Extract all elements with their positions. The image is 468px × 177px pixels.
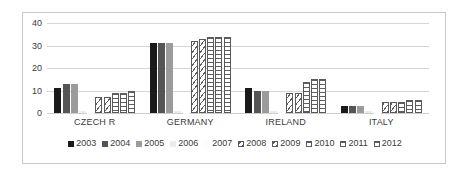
bar bbox=[63, 84, 70, 113]
legend-item-2007[interactable]: 2007 bbox=[204, 139, 232, 148]
category-label-ireland: IRELAND bbox=[238, 117, 334, 127]
bar bbox=[286, 93, 293, 113]
bar bbox=[199, 39, 206, 113]
legend-item-2006[interactable]: 2006 bbox=[170, 139, 198, 148]
category-label-czech-r: CZECH R bbox=[47, 117, 143, 127]
category-label-italy: ITALY bbox=[334, 117, 430, 127]
bar bbox=[262, 91, 269, 114]
bar bbox=[150, 43, 157, 113]
category-label-germany: GERMANY bbox=[143, 117, 239, 127]
legend-swatch-icon bbox=[136, 141, 142, 147]
bar bbox=[87, 113, 94, 114]
y-axis-tick-30: 30 bbox=[32, 41, 42, 50]
bar bbox=[341, 106, 348, 113]
legend-swatch-icon bbox=[102, 141, 108, 147]
chart-container: 010203040 CZECH RGERMANYIRELANDITALY 200… bbox=[22, 12, 446, 164]
bar bbox=[120, 93, 127, 113]
bar-group bbox=[238, 23, 334, 113]
legend-label: 2006 bbox=[178, 139, 198, 148]
bar bbox=[128, 91, 135, 114]
legend-label: 2005 bbox=[144, 139, 164, 148]
legend-label: 2008 bbox=[246, 139, 266, 148]
chart-legend: 2003200420052006200720082009201020112012 bbox=[33, 139, 437, 148]
legend-item-2010[interactable]: 2010 bbox=[306, 139, 334, 148]
bar bbox=[166, 43, 173, 113]
gridline-0: 0 bbox=[47, 113, 429, 114]
bar-group bbox=[47, 23, 143, 113]
y-axis-tick-0: 0 bbox=[37, 109, 42, 118]
plot-area: 010203040 bbox=[47, 23, 429, 113]
bar bbox=[158, 43, 165, 113]
bar bbox=[311, 79, 318, 113]
bar bbox=[295, 93, 302, 113]
bar bbox=[191, 41, 198, 113]
bar bbox=[398, 102, 405, 113]
bar-group bbox=[143, 23, 239, 113]
bar bbox=[406, 100, 413, 114]
bar bbox=[71, 84, 78, 113]
legend-swatch-icon bbox=[238, 141, 244, 147]
legend-swatch-icon bbox=[340, 141, 346, 147]
legend-swatch-icon bbox=[204, 141, 210, 147]
bar bbox=[349, 106, 356, 113]
bar-group bbox=[334, 23, 430, 113]
legend-swatch-icon bbox=[306, 141, 312, 147]
legend-label: 2004 bbox=[110, 139, 130, 148]
legend-item-2011[interactable]: 2011 bbox=[340, 139, 367, 148]
legend-swatch-icon bbox=[272, 141, 278, 147]
legend-swatch-icon bbox=[68, 141, 74, 147]
y-axis-tick-40: 40 bbox=[32, 19, 42, 28]
bar bbox=[319, 79, 326, 113]
bar bbox=[365, 111, 372, 113]
bar bbox=[207, 37, 214, 114]
bar bbox=[303, 82, 310, 114]
legend-swatch-icon bbox=[374, 141, 380, 147]
legend-item-2012[interactable]: 2012 bbox=[374, 139, 402, 148]
legend-label: 2011 bbox=[348, 139, 367, 148]
bar-groups bbox=[47, 23, 429, 113]
bar bbox=[79, 111, 86, 113]
bar bbox=[254, 91, 261, 114]
bar bbox=[415, 100, 422, 114]
bar bbox=[390, 102, 397, 113]
bar bbox=[374, 113, 381, 114]
bar bbox=[278, 113, 285, 114]
legend-label: 2012 bbox=[382, 139, 402, 148]
bar bbox=[95, 97, 102, 113]
y-axis-tick-20: 20 bbox=[32, 64, 42, 73]
legend-item-2008[interactable]: 2008 bbox=[238, 139, 266, 148]
bar bbox=[112, 93, 119, 113]
legend-label: 2010 bbox=[314, 139, 334, 148]
legend-item-2003[interactable]: 2003 bbox=[68, 139, 96, 148]
legend-swatch-icon bbox=[170, 141, 176, 147]
legend-item-2005[interactable]: 2005 bbox=[136, 139, 164, 148]
legend-label: 2007 bbox=[212, 139, 232, 148]
y-axis-tick-10: 10 bbox=[32, 86, 42, 95]
bar bbox=[357, 106, 364, 113]
bar bbox=[245, 88, 252, 113]
legend-label: 2009 bbox=[280, 139, 300, 148]
category-axis-labels: CZECH RGERMANYIRELANDITALY bbox=[47, 117, 429, 127]
bar bbox=[183, 113, 190, 114]
bar bbox=[270, 111, 277, 113]
bar bbox=[215, 37, 222, 114]
legend-item-2004[interactable]: 2004 bbox=[102, 139, 130, 148]
legend-item-2009[interactable]: 2009 bbox=[272, 139, 300, 148]
bar bbox=[174, 111, 181, 113]
bar bbox=[224, 37, 231, 114]
bar bbox=[104, 97, 111, 113]
bar bbox=[382, 102, 389, 113]
legend-label: 2003 bbox=[76, 139, 96, 148]
bar bbox=[54, 88, 61, 113]
